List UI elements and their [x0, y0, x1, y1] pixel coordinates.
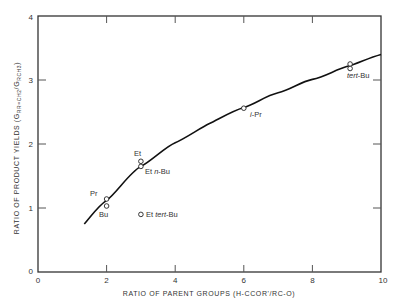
x-tick-label: 6: [242, 276, 247, 285]
data-points: [104, 62, 352, 217]
label-et-n-bu-prefix: Et: [145, 167, 154, 176]
label-tert-bu-suffix: -Bu: [358, 71, 370, 80]
point-et-n-bu: [139, 164, 144, 169]
label-et: Et: [134, 149, 142, 158]
label-pr: Pr: [90, 189, 98, 198]
x-tick-labels: 0 2 4 6 8 10: [36, 276, 388, 285]
y-tick-label: 2: [29, 140, 34, 149]
label-et-n-bu: Et n-Bu: [145, 167, 170, 176]
y-tick-label: 3: [29, 76, 34, 85]
y-axis-title: RATIO OF PRODUCT YIELDS (GRR=CH2/GRCH3): [13, 62, 22, 234]
x-tick-label: 8: [310, 276, 315, 285]
right-axis-ticks: [373, 80, 381, 208]
y-tick-label: 1: [29, 204, 34, 213]
top-axis-ticks: [107, 16, 313, 23]
y-axis-title-sub2: RCH3: [16, 65, 22, 81]
chart: 0 2 4 6 8 10 0 1 2 3 4 RATIO OF PARENT G…: [0, 0, 399, 308]
label-i-pr-suffix: -Pr: [252, 110, 263, 119]
label-tert-bu: tert-Bu: [347, 71, 370, 80]
x-tick-label: 10: [379, 276, 388, 285]
point-et-tert-bu: [139, 212, 144, 217]
label-bu: Bu: [99, 210, 108, 219]
x-tick-label: 2: [104, 276, 109, 285]
label-et-tert-bu-prefix: Et: [146, 210, 155, 219]
point-tert-bu-upper: [348, 62, 353, 67]
y-axis-title-sub1: RR=CH2: [16, 89, 22, 113]
label-i-pr: i-Pr: [250, 110, 262, 119]
y-axis-title-paren: (G: [13, 113, 21, 122]
y-tick-label: 0: [29, 267, 34, 276]
label-et-n-bu-suffix: -Bu: [158, 167, 170, 176]
label-et-tert-bu-suffix: -Bu: [166, 210, 178, 219]
point-bu: [104, 204, 109, 209]
fitted-curve: [84, 54, 381, 224]
label-et-tert-bu: Et tert-Bu: [146, 210, 178, 219]
x-tick-label: 4: [173, 276, 178, 285]
x-tick-label: 0: [36, 276, 41, 285]
point-pr: [104, 197, 109, 202]
y-axis-ticks: [38, 80, 46, 208]
x-axis-title: RATIO OF PARENT GROUPS (H-CCOR'/RC-O): [123, 290, 295, 298]
x-axis-ticks: [107, 265, 313, 272]
y-axis-title-main: RATIO OF PRODUCT YIELDS: [13, 122, 20, 234]
y-axis-title-slash: /G: [13, 81, 20, 90]
point-et: [139, 159, 144, 164]
point-i-pr: [242, 106, 247, 111]
point-labels: Pr Bu Et Et n-Bu Et tert-Bu i-Pr tert-Bu: [90, 71, 370, 219]
plot-frame: [38, 16, 381, 272]
y-tick-label: 4: [29, 13, 34, 22]
y-axis-title-close: ): [13, 62, 21, 65]
y-tick-labels: 0 1 2 3 4: [29, 13, 34, 276]
